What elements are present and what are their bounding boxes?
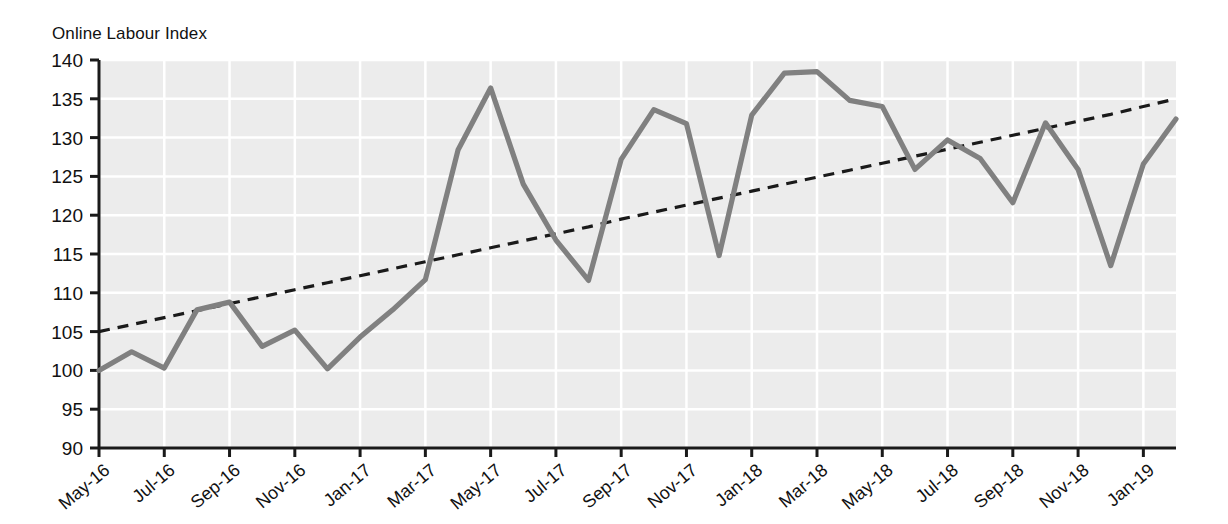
svg-text:Sep-18: Sep-18 <box>970 460 1027 513</box>
svg-text:90: 90 <box>62 438 83 459</box>
svg-text:Mar-17: Mar-17 <box>383 460 440 512</box>
svg-text:Jul-16: Jul-16 <box>128 460 178 507</box>
svg-text:Nov-17: Nov-17 <box>644 460 701 513</box>
svg-text:Sep-16: Sep-16 <box>187 460 244 513</box>
svg-text:Jan-18: Jan-18 <box>711 460 766 511</box>
y-axis-tick-labels: 9095100105110115120125130135140 <box>51 50 83 459</box>
svg-text:Jan-17: Jan-17 <box>320 460 375 511</box>
svg-text:125: 125 <box>51 166 83 187</box>
svg-text:May-17: May-17 <box>446 460 505 514</box>
svg-text:95: 95 <box>62 399 83 420</box>
svg-text:105: 105 <box>51 322 83 343</box>
svg-text:May-18: May-18 <box>838 460 897 514</box>
svg-text:135: 135 <box>51 89 83 110</box>
svg-text:Nov-16: Nov-16 <box>252 460 309 513</box>
svg-text:Mar-18: Mar-18 <box>775 460 832 512</box>
svg-text:110: 110 <box>53 283 83 304</box>
svg-text:120: 120 <box>51 205 83 226</box>
svg-text:Nov-18: Nov-18 <box>1035 460 1092 513</box>
svg-text:May-16: May-16 <box>55 460 114 514</box>
x-axis-tick-labels: May-16Jul-16Sep-16Nov-16Jan-17Mar-17May-… <box>55 460 1158 514</box>
svg-text:Jul-18: Jul-18 <box>912 460 962 507</box>
svg-text:Sep-17: Sep-17 <box>578 460 635 513</box>
svg-text:130: 130 <box>51 128 83 149</box>
chart-container: Online Labour Index 90951001051101151201… <box>0 0 1228 524</box>
line-chart-plot: 9095100105110115120125130135140 May-16Ju… <box>0 0 1228 524</box>
svg-text:100: 100 <box>51 360 83 381</box>
svg-text:Jul-17: Jul-17 <box>520 460 570 507</box>
svg-text:115: 115 <box>53 244 83 265</box>
svg-text:140: 140 <box>51 50 83 71</box>
svg-text:Jan-19: Jan-19 <box>1103 460 1158 511</box>
